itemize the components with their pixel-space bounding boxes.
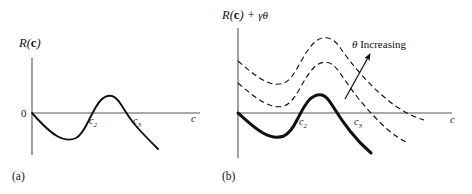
panel-b-dashed-curve-medium-theta: [238, 62, 406, 142]
panel-b-tick-c3: c3: [354, 116, 362, 130]
panel-a-origin-label: 0: [21, 107, 27, 119]
panel-a-tick-c3: c3: [133, 115, 141, 129]
panel-b: θ Increasing R(c) + γθ c2 c3 c (b): [221, 8, 455, 183]
svg-text:c3: c3: [354, 116, 362, 130]
panel-b-dashed-curve-large-theta: [238, 38, 424, 120]
figure-canvas: R(c) 0 c2 c3 c (a): [0, 0, 472, 194]
panel-a-caption: (a): [12, 170, 25, 183]
panel-a-y-axis-label: R(c): [18, 36, 41, 50]
panel-b-y-axis-label: R(c) + γθ: [221, 8, 269, 22]
svg-text:c2: c2: [89, 115, 97, 129]
panel-a-x-axis-label: c: [191, 113, 196, 124]
panel-a: R(c) 0 c2 c3 c (a): [12, 36, 200, 183]
panel-a-tick-c2: c2: [89, 115, 97, 129]
svg-text:c2: c2: [299, 116, 307, 130]
panel-b-x-axis-label: c: [450, 114, 455, 125]
svg-text:c3: c3: [133, 115, 141, 129]
panel-b-tick-c2: c2: [299, 116, 307, 130]
figure-root: R(c) 0 c2 c3 c (a): [0, 0, 472, 194]
theta-increasing-arrow: [345, 54, 370, 99]
theta-increasing-label: θ Increasing: [352, 38, 406, 50]
panel-b-caption: (b): [222, 170, 236, 183]
